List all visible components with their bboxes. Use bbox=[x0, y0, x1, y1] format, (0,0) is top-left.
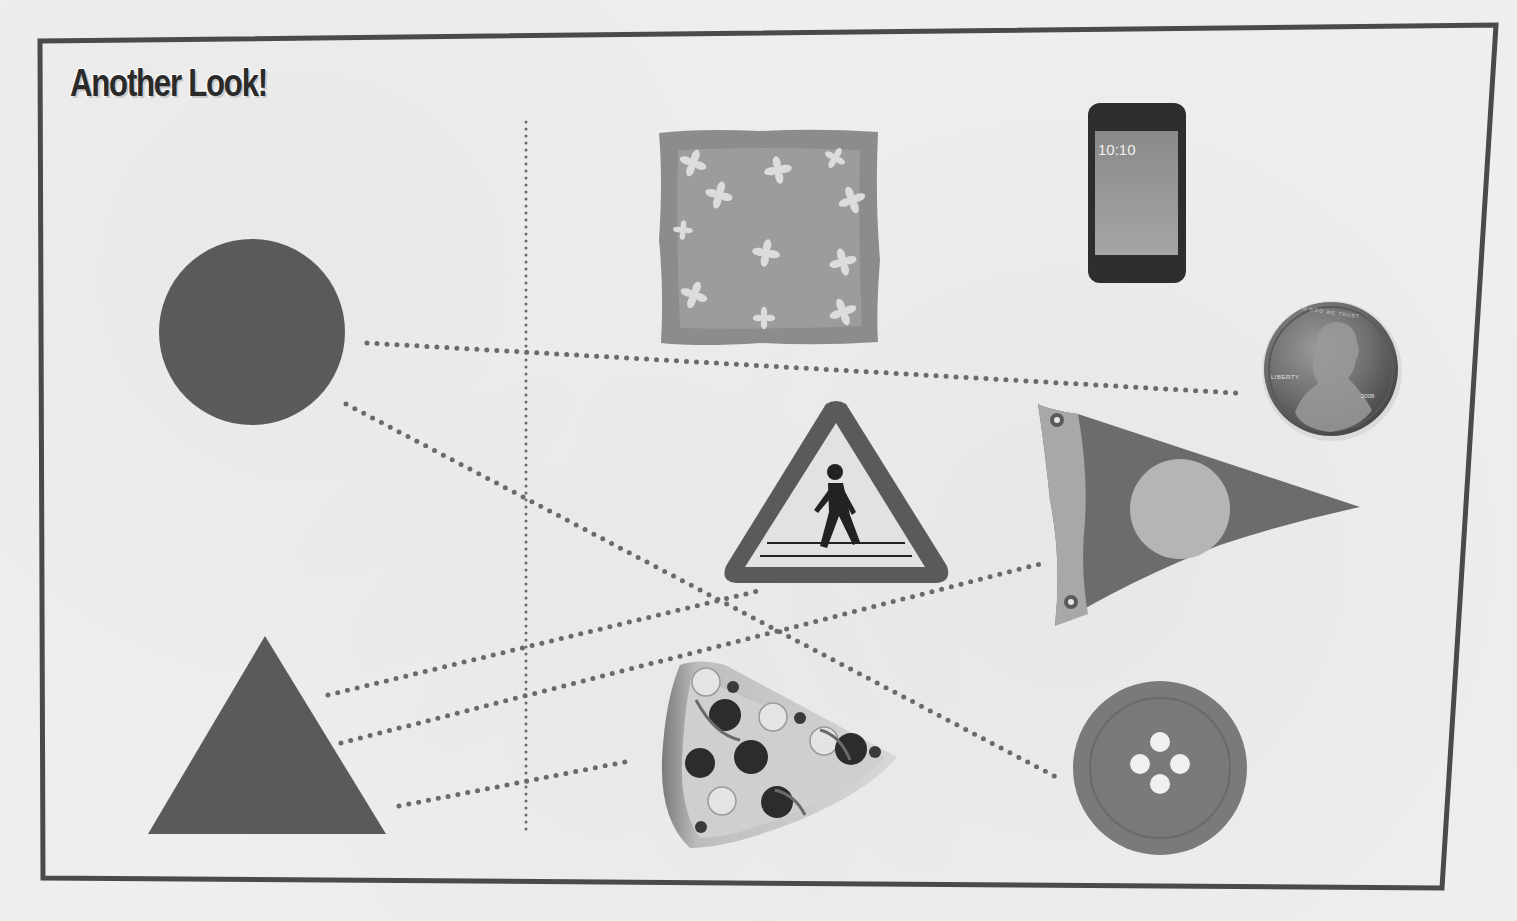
triangle-shape bbox=[148, 636, 386, 834]
penny-object bbox=[1262, 301, 1402, 441]
crossing-sign-object bbox=[724, 401, 948, 583]
penny-year: 2008 bbox=[1361, 393, 1374, 399]
line-circle-to-penny bbox=[367, 343, 1236, 393]
line-triangle-to-pizza bbox=[399, 761, 630, 806]
worksheet-scene bbox=[0, 0, 1517, 921]
phone-screen-time: 10:10 bbox=[1098, 141, 1136, 158]
button-object bbox=[1073, 681, 1247, 855]
worksheet-title: Another Look! bbox=[70, 62, 267, 105]
circle-shape bbox=[159, 239, 345, 425]
phone-object bbox=[1088, 103, 1186, 283]
penny-liberty: LIBERTY bbox=[1271, 374, 1299, 380]
pizza-object bbox=[662, 662, 897, 849]
napkin-object bbox=[659, 130, 880, 345]
